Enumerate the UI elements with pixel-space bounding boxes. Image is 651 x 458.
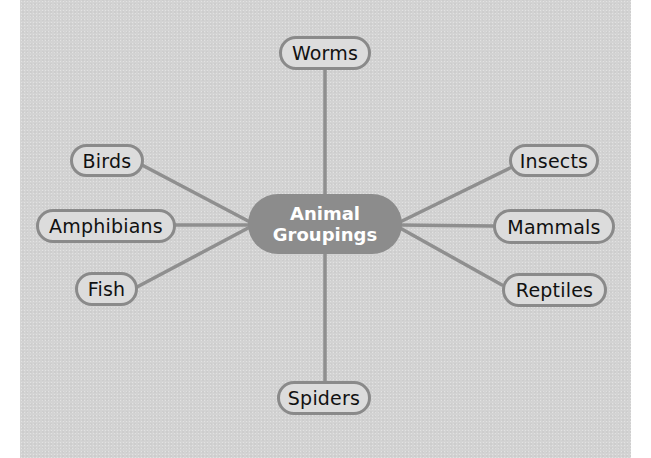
node-spiders: Spiders <box>277 381 371 415</box>
node-label: Amphibians <box>49 215 163 237</box>
node-label: Fish <box>88 278 126 300</box>
node-mammals: Mammals <box>493 209 615 244</box>
node-label: Spiders <box>288 387 360 409</box>
node-label: Worms <box>292 42 358 64</box>
central-node-animal-groupings: Animal Groupings <box>248 194 402 254</box>
node-insects: Insects <box>509 144 599 177</box>
central-node-line2: Groupings <box>273 224 377 245</box>
connector-insects <box>400 168 510 222</box>
node-reptiles: Reptiles <box>502 273 607 307</box>
connector-mammals <box>400 225 493 226</box>
node-label: Insects <box>520 150 588 172</box>
node-label: Reptiles <box>516 279 593 301</box>
central-node-line1: Animal <box>290 203 360 224</box>
node-label: Birds <box>83 150 132 172</box>
node-fish: Fish <box>75 272 138 306</box>
connector-reptiles <box>400 228 502 285</box>
node-worms: Worms <box>279 36 371 70</box>
node-birds: Birds <box>70 144 144 177</box>
node-amphibians: Amphibians <box>36 209 176 243</box>
node-label: Mammals <box>507 216 600 238</box>
